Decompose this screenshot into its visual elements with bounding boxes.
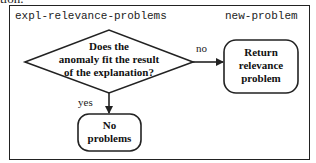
no-problems-line-1: No (78, 119, 141, 132)
return-line-2: relevance (224, 59, 298, 72)
no-problems-line-2: problems (78, 132, 141, 145)
no-problems-text: No problems (78, 119, 141, 145)
return-line-1: Return (224, 46, 298, 59)
return-line-3: problem (224, 72, 298, 85)
decision-text: Does the anomaly fit the result of the e… (40, 40, 178, 79)
decision-line-3: of the explanation? (40, 66, 178, 79)
flowchart-canvas: tion. expl-relevance-problems new-proble… (0, 0, 316, 163)
decision-line-2: anomaly fit the result (40, 53, 178, 66)
return-box-text: Return relevance problem (224, 46, 298, 85)
decision-line-1: Does the (40, 40, 178, 53)
yes-edge-label: yes (78, 96, 93, 108)
no-edge-label: no (196, 42, 207, 54)
